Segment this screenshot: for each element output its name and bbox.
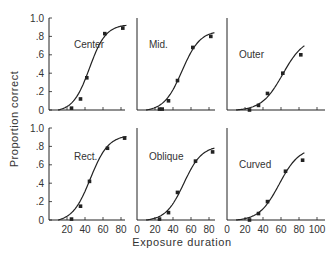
data-point (209, 35, 213, 39)
x-tick-label: 60 (275, 224, 287, 235)
x-tick-label: 80 (203, 224, 215, 235)
x-tick-label: 60 (185, 224, 197, 235)
data-point (281, 71, 285, 75)
panel-label: Mid. (149, 39, 168, 50)
data-point (121, 26, 125, 30)
data-point (167, 211, 171, 215)
data-point (299, 53, 303, 57)
panel-rect (49, 128, 126, 221)
x-tick-label: 40 (167, 224, 179, 235)
y-tick-label: 1.0 (30, 123, 44, 134)
y-tick-label: .4 (36, 68, 45, 79)
x-tick-label: 20 (239, 224, 251, 235)
y-tick-label: .6 (36, 159, 45, 170)
data-point (79, 204, 83, 208)
x-axis-label: Exposure duration (0, 236, 334, 248)
data-point (123, 136, 127, 140)
x-tick-label: 20 (149, 224, 161, 235)
y-tick-label: .8 (36, 31, 45, 42)
y-tick-label: .6 (36, 49, 45, 60)
panel-curved (227, 128, 325, 222)
y-tick-label: .8 (36, 141, 45, 152)
panel-outer (227, 18, 325, 112)
panel-label: Curved (239, 159, 271, 170)
x-tick-label: 80 (293, 224, 305, 235)
x-tick-label: 40 (79, 224, 91, 235)
data-point (301, 158, 305, 162)
x-tick-label: 40 (257, 224, 269, 235)
data-point (167, 99, 171, 103)
panel-label: Oblique (149, 151, 184, 162)
data-point (257, 104, 261, 108)
data-point (211, 150, 215, 154)
data-point (160, 107, 164, 111)
panel-label: Center (74, 39, 105, 50)
data-point (88, 180, 92, 184)
panel-mid (137, 18, 215, 111)
data-point (266, 200, 270, 204)
panel-label: Outer (239, 49, 265, 60)
data-point (176, 79, 180, 83)
x-tick-label: 80 (115, 224, 127, 235)
y-tick-label: .4 (36, 178, 45, 189)
x-tick-label: 60 (97, 224, 109, 235)
panel-label: Rect. (74, 151, 97, 162)
x-tick-label: 100 (309, 224, 326, 235)
data-point (70, 106, 74, 110)
x-tick-label: 20 (61, 224, 73, 235)
y-tick-label: .2 (36, 86, 45, 97)
chart-figure: 0.2.4.6.81.0CenterMid.Outer0.2.4.6.81.02… (0, 0, 334, 262)
panel-oblique (137, 128, 215, 221)
data-point (257, 212, 261, 216)
y-tick-label: 0 (38, 215, 44, 226)
data-point (106, 146, 110, 150)
data-point (79, 97, 83, 101)
x-tick-label: 0 (134, 224, 140, 235)
y-axis-label: Proportion correct (6, 64, 22, 174)
data-point (284, 169, 288, 173)
fit-curve (58, 137, 126, 221)
data-point (158, 217, 162, 221)
y-axis-label-text: Proportion correct (8, 71, 20, 167)
data-point (176, 191, 180, 195)
data-point (103, 32, 107, 36)
y-tick-label: .2 (36, 196, 45, 207)
x-tick-label: 0 (224, 224, 230, 235)
data-point (70, 217, 74, 221)
panel-center (49, 18, 126, 110)
data-point (85, 76, 89, 80)
data-point (194, 159, 198, 163)
data-point (191, 46, 195, 50)
y-tick-label: 0 (38, 105, 44, 116)
data-point (266, 92, 270, 96)
data-point (248, 218, 252, 222)
y-tick-label: 1.0 (30, 13, 44, 24)
data-point (248, 108, 252, 112)
